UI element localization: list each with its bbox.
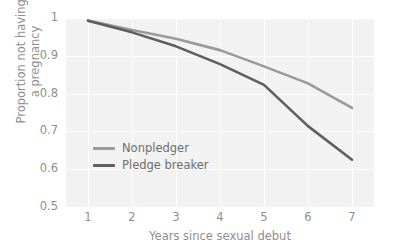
gridline-horizontal xyxy=(66,207,374,208)
series-line-pledge-breaker xyxy=(88,21,352,160)
legend-swatch-icon xyxy=(93,164,115,167)
x-tick-label: 6 xyxy=(293,212,323,224)
x-tick-label: 2 xyxy=(117,212,147,224)
y-axis-title-line1: Proportion not having xyxy=(14,0,28,124)
y-tick-label: 0.5 xyxy=(16,201,58,213)
x-tick-label: 7 xyxy=(337,212,367,224)
legend-swatch-icon xyxy=(93,147,115,150)
plot-area xyxy=(66,18,374,207)
x-tick-label: 5 xyxy=(249,212,279,224)
x-tick-label: 4 xyxy=(205,212,235,224)
legend-item-nonpledger: Nonpledger xyxy=(93,140,209,157)
series-layer xyxy=(66,18,374,207)
y-tick-label: 0.6 xyxy=(16,163,58,175)
x-tick-label: 1 xyxy=(73,212,103,224)
y-axis-title-line2: a pregnancy xyxy=(28,0,42,141)
x-tick-label: 3 xyxy=(161,212,191,224)
legend: Nonpledger Pledge breaker xyxy=(93,140,209,174)
legend-label: Pledge breaker xyxy=(122,160,209,172)
y-axis-title: Proportion not having a pregnancy xyxy=(14,0,43,141)
legend-item-pledge-breaker: Pledge breaker xyxy=(93,157,209,174)
x-axis-title: Years since sexual debut xyxy=(66,230,374,243)
chart-figure: 10.90.80.70.60.51234567 Years since sexu… xyxy=(0,0,394,250)
legend-label: Nonpledger xyxy=(122,143,189,155)
